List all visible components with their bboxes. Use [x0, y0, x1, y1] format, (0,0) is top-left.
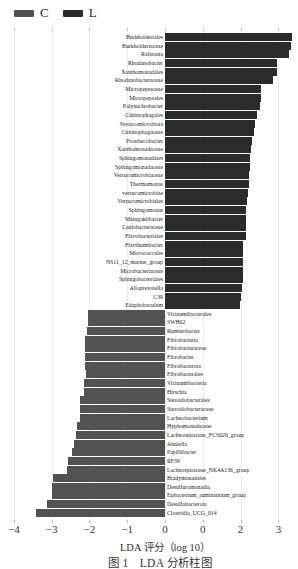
lda-bar: [165, 267, 243, 275]
taxon-label: Clostridia_UCG_014: [167, 509, 217, 517]
x-tick-label: 0: [200, 523, 206, 535]
taxon-label: Caulobacteraceae: [122, 223, 163, 231]
lda-bar: [52, 483, 165, 491]
lda-bar: [165, 215, 246, 223]
tick-mark-top: [52, 28, 53, 31]
taxon-label: Fibrobacterota: [167, 362, 201, 370]
lda-bar: [67, 466, 165, 474]
taxon-label: Sphingomonadales: [119, 154, 163, 162]
taxon-label: Micropepsaceae: [125, 85, 163, 93]
tick-mark-top: [165, 28, 166, 31]
lda-bar: [165, 249, 243, 257]
x-tick-label: −1: [121, 523, 133, 535]
taxon-label: Sphingomonadaceae: [115, 163, 163, 171]
x-axis-label: LDA 评分（log 10）: [0, 539, 298, 554]
lda-bar: [165, 145, 251, 153]
lda-bar: [165, 50, 289, 58]
x-tick-label: −4: [8, 523, 20, 535]
lda-bar: [53, 474, 165, 482]
lda-bar: [165, 120, 255, 128]
lda-bar: [165, 206, 246, 214]
taxon-label: Steroidobacteraceae: [167, 405, 214, 413]
taxon-label: Ahniella: [167, 440, 187, 448]
taxon-label: Bradymonadales: [167, 474, 206, 482]
lda-bar: [72, 448, 165, 456]
taxon-label: Lachnospiraceae_NK4A136_group: [167, 466, 249, 474]
tick-mark-top: [241, 28, 242, 31]
taxon-label: C39: [153, 293, 163, 301]
taxon-label: Verrucomicrobiota: [120, 120, 163, 128]
lda-bar: [165, 94, 261, 102]
taxon-label: Ralstonia: [141, 50, 163, 58]
taxon-label: Mizugakiibacter: [125, 215, 163, 223]
lda-bar: [80, 396, 165, 404]
lda-bar: [165, 137, 252, 145]
taxon-label: Micrococcales: [129, 249, 163, 257]
x-tick-label: 2: [238, 523, 244, 535]
x-tick-label: 0: [162, 523, 168, 535]
lda-bar: [165, 33, 292, 41]
x-tick-label: −3: [46, 523, 58, 535]
taxon-label: Hyphomonadaceae: [167, 422, 211, 430]
lda-bar: [165, 258, 243, 266]
tick-mark-top: [278, 28, 279, 31]
lda-bar: [165, 223, 246, 231]
x-tick-label: 3: [276, 523, 282, 535]
taxon-label: Alloprevotella: [130, 284, 163, 292]
lda-bar: [165, 42, 291, 50]
gridline: [278, 30, 279, 520]
taxon-label: Flavobacteriales: [125, 232, 163, 240]
taxon-label: Microbacteriaceae: [120, 267, 163, 275]
lda-bar: [165, 180, 249, 188]
lda-bar: [87, 327, 165, 335]
lda-bar: [165, 59, 277, 67]
lda-bar: [165, 197, 247, 205]
taxon-label: Thermomonas: [130, 180, 164, 188]
lda-bar: [165, 163, 250, 171]
lda-bar: [165, 275, 243, 283]
taxon-label: SWB02: [167, 318, 185, 326]
tick-mark-top: [203, 28, 204, 31]
lda-bar: [165, 68, 277, 76]
taxon-label: Steroidobacterales: [167, 396, 210, 404]
taxon-label: Verrucomicrobiaceae: [114, 171, 163, 179]
lda-bar: [165, 284, 242, 292]
lda-bar: [84, 388, 165, 396]
lda-bar: [165, 293, 241, 301]
figure-caption: 图 1 LDA 分析柱图: [0, 554, 298, 569]
taxon-label: Edaphobaculum: [125, 301, 163, 309]
taxon-label: Desulfuromonadia: [167, 483, 210, 491]
taxon-label: Xanthomonadaceae: [117, 145, 163, 153]
taxon-label: Ruminobacter: [167, 327, 200, 335]
taxon-label: Prosthecobacter: [126, 137, 163, 145]
taxon-label: Desulfobacterota: [167, 500, 207, 508]
lda-bar: [85, 336, 165, 344]
tick-mark-top: [89, 28, 90, 31]
lda-bar: [85, 362, 165, 370]
lda-bar: [88, 310, 165, 318]
lda-bar: [165, 301, 240, 309]
taxon-label: Flavihumibacter: [125, 241, 163, 249]
taxon-label: Micropepsales: [129, 94, 163, 102]
lda-bar: [47, 500, 165, 508]
taxon-label: Fibrobacteria: [167, 336, 198, 344]
lda-bar-chart: −4−3−2−10023BurkholderialesBurkholderiac…: [0, 0, 298, 569]
taxon-label: Chitinophagaceae: [121, 128, 163, 136]
taxon-label: Xanthomonadales: [121, 68, 163, 76]
taxon-label: Hirschia: [167, 388, 187, 396]
lda-bar: [80, 405, 165, 413]
lda-bar: [84, 379, 165, 387]
taxon-label: Sphingomonas: [129, 206, 163, 214]
gridline: [14, 30, 15, 520]
taxon-label: NS11_12_marine_group: [106, 258, 163, 266]
taxon-label: RF39: [167, 457, 180, 465]
taxon-label: verrucomicrobiae: [122, 189, 163, 197]
taxon-label: Papillibacter: [167, 448, 196, 456]
lda-bar: [165, 85, 261, 93]
lda-bar: [165, 128, 254, 136]
lda-bar: [88, 318, 165, 326]
lda-bar: [165, 241, 243, 249]
lda-bar: [85, 344, 165, 352]
lda-bar: [77, 422, 165, 430]
tick-mark-top: [14, 28, 15, 31]
